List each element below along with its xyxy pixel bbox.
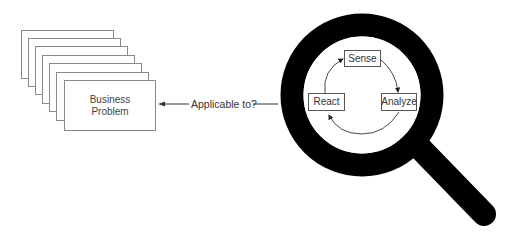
magnifying-glass-icon (0, 0, 507, 233)
stage-analyze: Analyze (381, 93, 417, 111)
magnifier-handle (420, 148, 484, 214)
stage-react-label: React (313, 96, 339, 108)
stage-react: React (308, 93, 345, 111)
stage-analyze-label: Analyze (381, 96, 417, 108)
stage-sense-label: Sense (348, 53, 376, 65)
stage-sense: Sense (344, 50, 381, 67)
diagram-canvas: Business Problem Applicable to? Sense (0, 0, 507, 233)
